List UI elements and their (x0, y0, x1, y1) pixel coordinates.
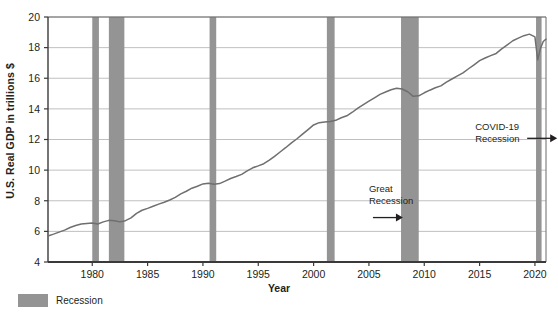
x-tick-label-1995: 1995 (247, 268, 271, 280)
annotation-covid-19-recession-line-0: COVID-19 (475, 121, 519, 132)
y-axis-label: U.S. Real GDP in trillions $ (4, 63, 16, 199)
y-tick-label-18: 18 (28, 41, 40, 53)
annotation-covid-19-recession-line-1: Recession (475, 133, 519, 144)
legend-swatch-recession (18, 294, 48, 307)
y-tick-label-12: 12 (28, 133, 40, 145)
x-tick-label-2005: 2005 (357, 268, 381, 280)
x-tick-label-2010: 2010 (413, 268, 437, 280)
y-tick-label-6: 6 (34, 225, 40, 237)
recession-band-0 (92, 17, 99, 262)
y-tick-label-10: 10 (28, 164, 40, 176)
y-tick-label-8: 8 (34, 195, 40, 207)
y-tick-label-14: 14 (28, 103, 40, 115)
recession-band-1 (109, 17, 124, 262)
annotation-great-recession-line-1: Recession (369, 195, 413, 206)
annotation-great-recession-line-0: Great (369, 183, 393, 194)
x-tick-label-1985: 1985 (136, 268, 160, 280)
y-axis-label-wrapper: U.S. Real GDP in trillions $ (0, 0, 22, 262)
y-tick-label-4: 4 (34, 256, 40, 268)
x-tick-label-2020: 2020 (523, 268, 547, 280)
x-axis-label: Year (0, 282, 558, 294)
annotation-covid-19-recession-arrow-head (550, 134, 557, 142)
x-tick-label-1980: 1980 (81, 268, 105, 280)
y-tick-label-20: 20 (28, 11, 40, 23)
recession-band-3 (327, 17, 335, 262)
x-tick-label-1990: 1990 (191, 268, 215, 280)
chart-legend: Recession (18, 294, 103, 307)
y-tick-label-16: 16 (28, 72, 40, 84)
recession-band-4 (401, 17, 419, 262)
recession-band-2 (210, 17, 217, 262)
x-tick-label-2015: 2015 (468, 268, 492, 280)
gdp-recession-chart-figure: 4681012141618201980198519901995200020052… (0, 0, 558, 312)
chart-canvas: 4681012141618201980198519901995200020052… (0, 0, 558, 312)
legend-label-recession: Recession (56, 295, 103, 306)
x-tick-label-2000: 2000 (302, 268, 326, 280)
